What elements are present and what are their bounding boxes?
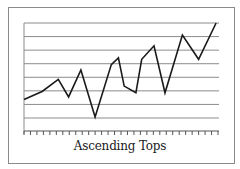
price-line xyxy=(24,23,216,117)
chart-title: Ascending Tops xyxy=(0,139,240,153)
gridlines xyxy=(24,23,219,134)
x-axis-ticks xyxy=(24,131,218,135)
